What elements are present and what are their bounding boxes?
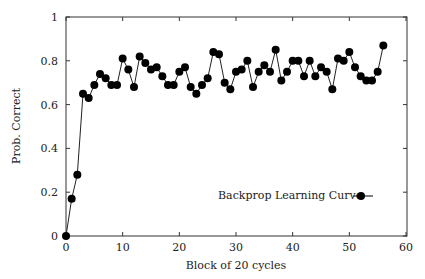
legend-label: Backprop Learning Curve xyxy=(218,189,362,202)
plot-frame xyxy=(66,17,407,236)
data-series-markers xyxy=(62,41,387,240)
data-point xyxy=(272,46,280,54)
data-point xyxy=(351,63,359,71)
x-tick-label: 40 xyxy=(286,241,300,254)
data-point xyxy=(102,74,110,82)
data-point xyxy=(153,63,161,71)
learning-curve-chart: 0102030405060 00.20.40.60.81 Block of 20… xyxy=(0,0,425,279)
data-point xyxy=(85,94,93,102)
x-axis-label: Block of 20 cycles xyxy=(186,259,287,272)
data-point xyxy=(260,61,268,69)
legend-marker-icon xyxy=(357,192,365,200)
data-series-line xyxy=(66,46,383,237)
y-axis-label: Prob. Correct xyxy=(10,87,23,164)
data-point xyxy=(294,57,302,65)
legend: Backprop Learning Curve xyxy=(218,189,373,202)
data-point xyxy=(90,81,98,89)
data-point xyxy=(113,81,121,89)
data-point xyxy=(68,195,76,203)
data-point xyxy=(266,68,274,76)
data-point xyxy=(215,50,223,58)
data-point xyxy=(158,72,166,80)
x-tick-label: 20 xyxy=(172,241,186,254)
x-tick-label: 30 xyxy=(229,241,243,254)
y-axis-ticks: 00.20.40.60.81 xyxy=(41,11,408,243)
data-point xyxy=(300,72,308,80)
data-point xyxy=(283,68,291,76)
y-tick-label: 0.4 xyxy=(41,142,59,155)
data-point xyxy=(198,81,206,89)
data-point xyxy=(243,57,251,65)
x-axis-ticks: 0102030405060 xyxy=(63,17,414,254)
x-tick-label: 0 xyxy=(63,241,70,254)
data-point xyxy=(119,55,127,63)
data-point xyxy=(379,41,387,49)
data-point xyxy=(124,66,132,74)
data-point xyxy=(277,77,285,85)
data-point xyxy=(221,79,229,87)
data-point xyxy=(170,81,178,89)
data-point xyxy=(323,68,331,76)
data-point xyxy=(368,77,376,85)
data-point xyxy=(374,68,382,76)
y-tick-label: 0.2 xyxy=(41,186,59,199)
x-tick-label: 50 xyxy=(342,241,356,254)
y-tick-label: 0.8 xyxy=(41,55,59,68)
x-tick-label: 10 xyxy=(116,241,130,254)
data-point xyxy=(136,52,144,60)
data-point xyxy=(73,171,81,179)
data-point xyxy=(249,83,257,91)
data-point xyxy=(340,57,348,65)
data-point xyxy=(62,232,70,240)
data-point xyxy=(204,74,212,82)
y-tick-label: 1 xyxy=(51,11,58,24)
data-point xyxy=(141,59,149,67)
data-point xyxy=(311,72,319,80)
data-point xyxy=(192,90,200,98)
y-tick-label: 0.6 xyxy=(41,99,59,112)
data-point xyxy=(345,48,353,56)
data-point xyxy=(255,68,263,76)
y-tick-label: 0 xyxy=(51,230,58,243)
data-point xyxy=(238,66,246,74)
data-point xyxy=(328,85,336,93)
data-point xyxy=(306,57,314,65)
data-point xyxy=(226,85,234,93)
data-point xyxy=(187,83,195,91)
data-point xyxy=(181,63,189,71)
data-point xyxy=(130,83,138,91)
x-tick-label: 60 xyxy=(399,241,413,254)
